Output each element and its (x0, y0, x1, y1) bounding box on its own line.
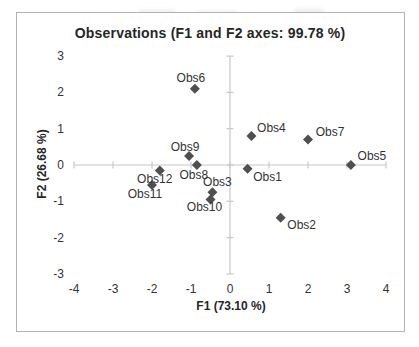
point-marker-Obs7 (303, 135, 313, 145)
x-tick-label-1: 1 (266, 282, 273, 296)
point-label-Obs10: Obs10 (187, 200, 223, 214)
y-tick-label--2: -2 (53, 231, 64, 245)
x-tick-label--3: -3 (108, 282, 119, 296)
point-label-Obs2: Obs2 (287, 218, 316, 232)
y-tick-label-0: 0 (57, 158, 64, 172)
x-tick-label--4: -4 (69, 282, 80, 296)
point-label-Obs1: Obs1 (253, 170, 282, 184)
y-tick-label-3: 3 (57, 49, 64, 63)
point-label-Obs12: Obs12 (137, 172, 173, 186)
point-marker-Obs2 (276, 213, 286, 223)
x-tick-label-0: 0 (227, 282, 234, 296)
point-label-Obs9: Obs9 (171, 140, 200, 154)
scatter-plot-canvas: -4-3-2-1012343210-1-2-3Obs1Obs2Obs3Obs4O… (0, 0, 419, 347)
point-label-Obs8: Obs8 (180, 168, 209, 182)
point-label-Obs11: Obs11 (128, 187, 163, 201)
y-tick-label-1: 1 (57, 122, 64, 136)
point-marker-Obs6 (190, 84, 200, 94)
x-tick-label-4: 4 (383, 282, 390, 296)
point-label-Obs6: Obs6 (177, 71, 206, 85)
y-tick-label-2: 2 (57, 85, 64, 99)
x-tick-label-3: 3 (344, 282, 351, 296)
point-marker-Obs4 (246, 131, 256, 141)
y-tick-label--3: -3 (53, 267, 64, 281)
y-tick-label--1: -1 (53, 194, 64, 208)
point-label-Obs5: Obs5 (358, 149, 387, 163)
point-label-Obs4: Obs4 (257, 121, 286, 135)
x-tick-label-2: 2 (305, 282, 312, 296)
point-label-Obs7: Obs7 (316, 125, 345, 139)
scanned-chart-page: Observations (F1 and F2 axes: 99.78 %) F… (0, 0, 419, 347)
x-tick-label--2: -2 (147, 282, 158, 296)
x-tick-label--1: -1 (186, 282, 197, 296)
